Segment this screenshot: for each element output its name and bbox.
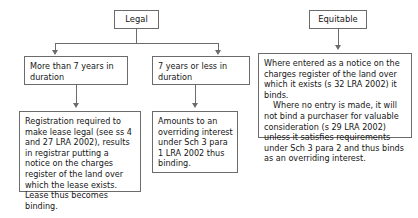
arrow-icon-legal-right	[215, 50, 221, 55]
connector-equitable-stem	[338, 29, 339, 46]
arrow-icon-more-than-7	[73, 103, 79, 108]
node-equitable-label: Equitable	[316, 14, 360, 24]
node-registration-required: Registration required to make lease lega…	[19, 111, 141, 192]
node-more-than-7-years-label: More than 7 years in duration	[30, 61, 123, 82]
arrow-icon-equitable	[335, 45, 341, 50]
node-equitable: Equitable	[309, 10, 367, 29]
node-equitable-detail-paragraph-2: Where no entry is made, it will not bind…	[264, 100, 407, 164]
node-more-than-7-years: More than 7 years in duration	[24, 56, 128, 85]
arrow-icon-legal-left	[52, 50, 58, 55]
connector-legal-split-bar	[55, 43, 218, 44]
arrow-icon-seven-or-less	[192, 103, 198, 108]
node-amounts-to-overriding-interest: Amounts to an overriding interest under …	[152, 111, 238, 173]
connector-seven-or-less-drop	[195, 85, 196, 104]
connector-more-than-7-drop	[76, 85, 77, 104]
node-amounts-to-overriding-interest-label: Amounts to an overriding interest under …	[158, 116, 234, 169]
node-seven-years-or-less-label: 7 years or less in duration	[158, 61, 245, 82]
connector-legal-stem	[136, 29, 137, 44]
node-equitable-detail: Where entered as a notice on the charges…	[258, 53, 412, 138]
node-registration-required-label: Registration required to make lease lega…	[25, 116, 136, 211]
node-legal-label: Legal	[121, 14, 152, 24]
flowchart-diagram: Legal Equitable More than 7 years in dur…	[0, 0, 418, 218]
node-equitable-detail-paragraph-1: Where entered as a notice on the charges…	[264, 58, 407, 100]
node-seven-years-or-less: 7 years or less in duration	[152, 56, 250, 85]
node-legal: Legal	[114, 10, 159, 29]
